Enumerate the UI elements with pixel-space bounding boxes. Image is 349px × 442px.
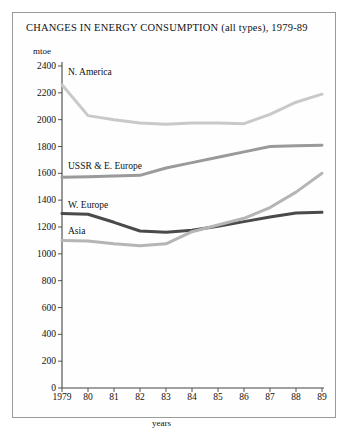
series-line-n-america bbox=[62, 85, 322, 125]
series-line-ussr-e-europe bbox=[62, 145, 322, 177]
series-line-w-europe bbox=[62, 212, 322, 232]
series-line-asia bbox=[62, 173, 322, 245]
chart-plot-area bbox=[0, 0, 349, 442]
